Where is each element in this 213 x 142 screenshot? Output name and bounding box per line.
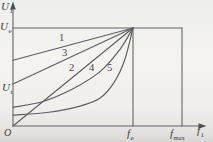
fe-tick-label: fe xyxy=(127,128,134,139)
curve-2-label: 2 xyxy=(69,63,74,74)
curve-1-label: 1 xyxy=(59,33,64,44)
curve-4-label: 4 xyxy=(89,63,94,74)
fmax-tick-sub: max xyxy=(174,135,185,142)
y-axis-label-sub: 1 xyxy=(9,8,13,15)
ut-tick-sub: t xyxy=(10,89,12,96)
ue-tick-label: Ue xyxy=(0,21,12,32)
ue-tick-sub: e xyxy=(8,28,11,35)
x-axis-label-sub: 1 xyxy=(201,132,205,139)
curve-2 xyxy=(13,28,133,126)
ut-tick-base: U xyxy=(2,81,10,93)
uf-control-curves-figure: U1 Ue Ut O fe fmax f1 1 3 2 4 5 xyxy=(0,0,213,142)
curve-3-label: 3 xyxy=(62,48,67,59)
fmax-tick-label: fmax xyxy=(170,128,185,139)
uf-curves-group xyxy=(13,28,133,126)
ut-tick-label: Ut xyxy=(2,82,12,93)
y-axis-label: U1 xyxy=(1,1,13,12)
curve-5-label: 5 xyxy=(107,63,112,74)
x-axis-label: f1 xyxy=(197,125,204,136)
fe-tick-sub: e xyxy=(131,135,134,142)
y-axis-label-base: U xyxy=(1,0,9,12)
ue-tick-base: U xyxy=(0,20,8,32)
origin-label: O xyxy=(4,128,11,138)
